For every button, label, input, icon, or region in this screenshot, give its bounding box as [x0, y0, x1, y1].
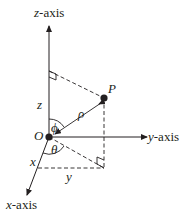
rho-label: ρ: [77, 106, 84, 121]
point-p: [100, 94, 107, 101]
x-axis-label: x-axis: [5, 197, 37, 212]
right-angle-marker-z: [49, 71, 56, 80]
z-axis-label: z-axis: [33, 5, 64, 20]
z-distance-label: z: [36, 97, 42, 112]
spherical-coordinates-diagram: z-axis y-axis x-axis O P ρ ϕ θ z x y: [0, 0, 183, 216]
theta-label: θ: [51, 142, 58, 157]
rho-arrow-head-p: [99, 103, 101, 104]
z-projection-dashed-line: [49, 71, 104, 98]
right-angle-marker-xy: [97, 157, 104, 168]
origin-label: O: [34, 128, 44, 143]
x-distance-label: x: [29, 154, 36, 169]
y-axis-label: y-axis: [146, 129, 179, 144]
phi-label: ϕ: [51, 120, 58, 135]
point-p-label: P: [107, 81, 116, 96]
y-distance-label: y: [64, 169, 72, 184]
